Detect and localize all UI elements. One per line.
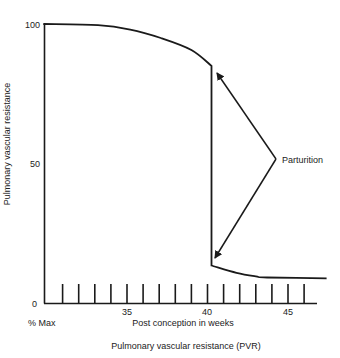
x-axis-ticks	[63, 284, 305, 304]
percent-max-label: % Max	[28, 318, 56, 328]
parturition-arrow-upper	[217, 73, 276, 159]
x-tick-label-40: 40	[202, 307, 212, 317]
y-tick-label-0: 0	[32, 299, 37, 309]
x-tick-label-35: 35	[122, 307, 132, 317]
x-axis-title: Post conception in weeks	[132, 318, 234, 328]
parturition-arrow-lower	[215, 159, 276, 258]
x-tick-label-45: 45	[283, 307, 293, 317]
y-tick-label-50: 50	[30, 159, 40, 169]
pvr-chart: 100 50 0 35 40 45 % Max Post conception …	[0, 0, 340, 358]
figure-caption: Pulmonary vascular resistance (PVR)	[111, 341, 261, 351]
pvr-curve	[43, 24, 326, 278]
y-axis-title: Pulmonary vascular resistance	[2, 83, 12, 206]
y-tick-label-100: 100	[25, 20, 40, 30]
parturition-annotation: Parturition	[282, 155, 323, 165]
